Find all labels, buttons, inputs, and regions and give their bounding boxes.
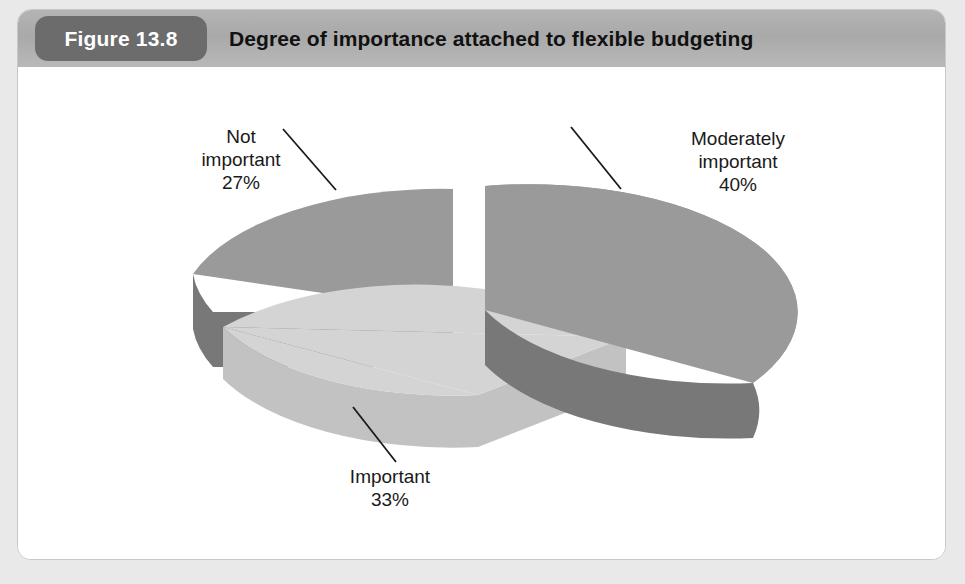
pie-label-moderately-important: Moderately important 40%	[628, 127, 848, 196]
pie-label-not-important: Not important 27%	[146, 125, 336, 194]
figure-title: Degree of importance attached to flexibl…	[229, 10, 753, 67]
figure-number-badge: Figure 13.8	[35, 16, 207, 61]
figure-number-label: Figure 13.8	[64, 27, 177, 51]
page-background: Figure 13.8 Degree of importance attache…	[0, 0, 965, 584]
pie-chart-area: Not important 27% Moderately important 4…	[18, 67, 946, 560]
figure-header-bar: Figure 13.8 Degree of importance attache…	[18, 10, 946, 67]
figure-card: Figure 13.8 Degree of importance attache…	[17, 9, 946, 560]
pie-label-important: Important 33%	[280, 465, 500, 511]
slice-not-important-wall-left	[193, 274, 213, 367]
leader-line-moderately-important	[571, 127, 621, 189]
